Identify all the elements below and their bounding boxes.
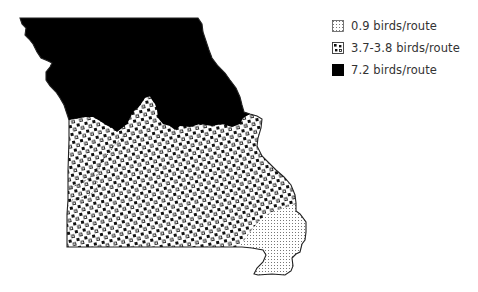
legend-label-high: 7.2 birds/route	[351, 63, 437, 77]
map-legend: 0.9 birds/route 3.7-3.8 birds/route 7.2 …	[332, 19, 460, 85]
legend-item-mid: 3.7-3.8 birds/route	[332, 41, 460, 55]
legend-item-low: 0.9 birds/route	[332, 19, 460, 33]
legend-item-high: 7.2 birds/route	[332, 63, 460, 77]
legend-label-mid: 3.7-3.8 birds/route	[351, 41, 460, 55]
stipple-swatch-icon	[332, 20, 344, 32]
dot-swatch-icon	[332, 42, 344, 54]
solid-swatch-icon	[332, 64, 344, 76]
legend-label-low: 0.9 birds/route	[351, 19, 437, 33]
